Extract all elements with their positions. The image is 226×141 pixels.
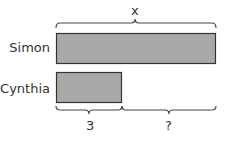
- known-value-label: 3: [86, 119, 94, 132]
- simon-label: Simon: [9, 41, 50, 54]
- tape-diagram: [0, 0, 226, 141]
- bottom-brace-known: [56, 106, 122, 114]
- top-brace: [56, 19, 216, 28]
- bottom-brace-unknown: [122, 106, 216, 114]
- total-label: x: [131, 4, 139, 17]
- unknown-value-label: ?: [165, 119, 172, 132]
- cynthia-bar: [57, 73, 122, 103]
- simon-bar: [57, 34, 216, 64]
- cynthia-label: Cynthia: [0, 82, 50, 95]
